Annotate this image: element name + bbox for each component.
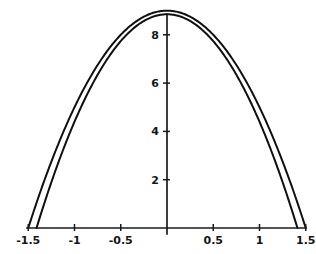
x-tick-label: 1: [256, 234, 264, 247]
x-tick-label: 1.5: [296, 234, 316, 247]
y-tick-label: 6: [151, 77, 159, 90]
y-tick-label: 2: [151, 174, 159, 187]
y-tick-label: 4: [151, 125, 159, 138]
x-tick-label: 0.5: [204, 234, 224, 247]
x-tick-label: -0.5: [109, 234, 133, 247]
parabola-plot: -1.5-1-0.50.511.5 2468: [0, 0, 316, 254]
x-tick-label: -1.5: [16, 234, 40, 247]
x-tick-label: -1: [68, 234, 80, 247]
chart-canvas: -1.5-1-0.50.511.5 2468: [0, 0, 316, 254]
y-tick-label: 8: [151, 29, 159, 42]
